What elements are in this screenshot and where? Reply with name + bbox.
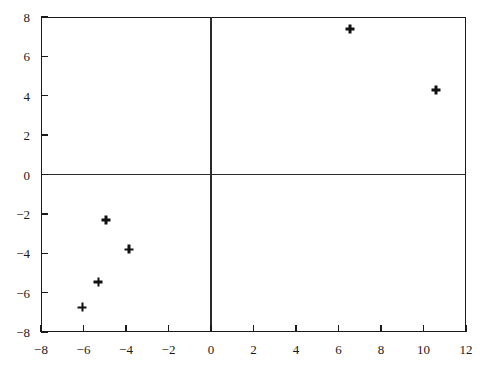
y-axis-tick [41,95,48,96]
x-axis-tick-label: 8 [378,343,385,356]
data-point-marker [77,302,88,313]
x-zero-axis-line [41,174,466,175]
data-point-marker [124,244,135,255]
x-axis-tick [338,325,339,332]
x-axis-tick-label: 10 [417,343,430,356]
x-axis-tick [380,325,381,332]
y-axis-tick [41,134,48,135]
x-axis-tick [295,325,296,332]
x-axis-tick-label: −8 [34,343,48,356]
y-axis-tick [41,174,48,175]
x-axis-tick [125,325,126,332]
y-axis-tick [41,213,48,214]
x-axis-tick [168,325,169,332]
x-axis-tick [465,325,466,332]
x-axis-tick [423,325,424,332]
data-point-marker [100,214,111,225]
y-axis-tick [41,253,48,254]
y-axis-tick-label: −6 [0,286,30,299]
y-axis-tick [41,16,48,17]
data-point-marker [93,276,104,287]
x-axis-tick [253,325,254,332]
data-point-marker [431,84,442,95]
y-axis-tick [41,56,48,57]
x-axis-tick [210,325,211,332]
y-axis-tick [41,292,48,293]
x-axis-tick-label: 4 [293,343,300,356]
x-axis-tick-label: 12 [460,343,473,356]
y-axis-tick-label: −8 [0,326,30,339]
y-axis-tick [41,331,48,332]
y-axis-tick-label: 2 [0,129,30,142]
x-axis-tick-label: −6 [77,343,91,356]
y-axis-tick-label: 0 [0,168,30,181]
scatter-plot-figure: −8−6−4−202468101286420−2−4−6−8 [0,0,487,372]
x-axis-tick-label: 6 [335,343,342,356]
y-axis-tick-label: −2 [0,207,30,220]
y-axis-tick-label: 8 [0,11,30,24]
y-axis-tick-label: 4 [0,89,30,102]
x-axis-tick [83,325,84,332]
x-axis-tick-label: 0 [208,343,215,356]
x-axis-tick-label: −2 [162,343,176,356]
x-axis-tick-label: −4 [119,343,133,356]
y-axis-tick-label: −4 [0,247,30,260]
data-point-marker [345,23,356,34]
y-axis-tick-label: 6 [0,50,30,63]
x-axis-tick-label: 2 [250,343,257,356]
